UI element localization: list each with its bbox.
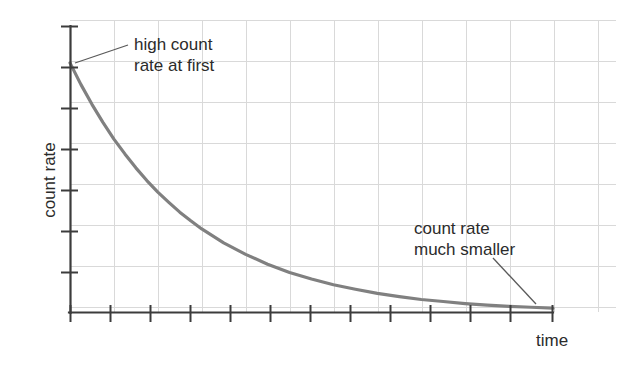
decay-curve-plot xyxy=(0,0,620,376)
decay-curve-line xyxy=(70,63,553,308)
annotation-low-count-rate: count rate much smaller xyxy=(414,218,515,260)
annotation-leader-high xyxy=(75,45,128,63)
annotation-leader-low xyxy=(493,258,536,304)
x-axis-label: time xyxy=(536,331,568,351)
annotation-high-count-rate: high count rate at first xyxy=(134,34,214,76)
y-axis-label: count rate xyxy=(40,120,60,240)
chart-canvas: count rate time high count rate at first… xyxy=(0,0,620,376)
